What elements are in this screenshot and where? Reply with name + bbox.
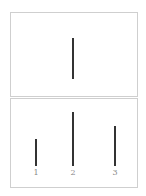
bar-label-2: 2 xyxy=(68,168,78,177)
single-bar xyxy=(72,38,74,79)
bar-label-1: 1 xyxy=(31,168,41,177)
bar-2 xyxy=(72,112,74,166)
top-panel xyxy=(10,12,138,97)
bar-label-3: 3 xyxy=(110,168,120,177)
bar-1 xyxy=(35,139,37,166)
bar-3 xyxy=(114,126,116,166)
bottom-panel: 1 2 3 xyxy=(10,98,138,188)
